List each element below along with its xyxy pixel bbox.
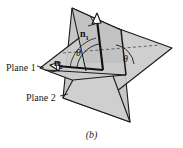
angle-label-left: θ	[76, 47, 81, 58]
n2-subscript: 2	[60, 63, 63, 70]
n1-subscript: 1	[86, 34, 89, 41]
figure-caption: (b)	[0, 130, 183, 140]
two-planes-normal-vectors-diagram: n1 n2 θ θ	[0, 0, 183, 148]
angle-label-right: θ	[123, 53, 128, 64]
plane-1-label: Plane 1	[6, 63, 36, 73]
plane-2-label: Plane 2	[26, 93, 56, 103]
